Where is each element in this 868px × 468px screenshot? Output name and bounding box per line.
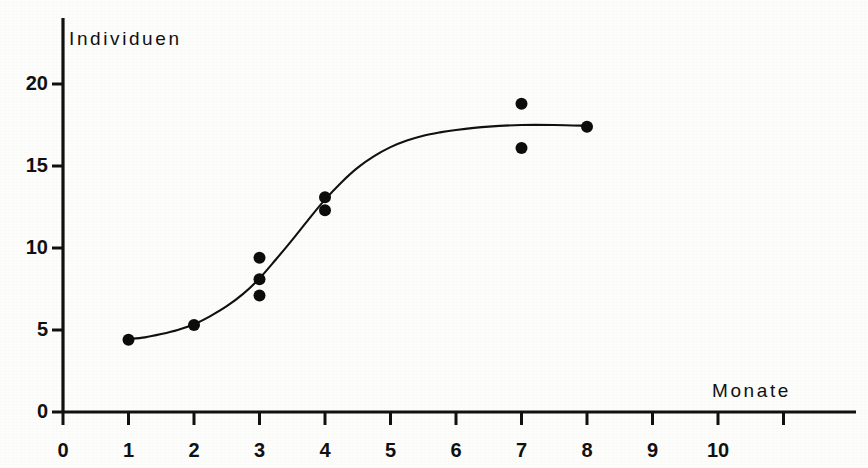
figure-panel: Individuen Monate 05101520012345678910: [0, 0, 868, 468]
x-axis-tick-label: 0: [43, 439, 83, 462]
x-axis-title: Monate: [712, 380, 791, 402]
data-point-marker: [319, 191, 331, 203]
data-point-marker: [254, 290, 266, 302]
data-point-marker: [188, 319, 200, 331]
data-point-marker: [516, 142, 528, 154]
data-point-marker: [516, 98, 528, 110]
data-point-marker: [581, 121, 593, 133]
x-axis-tick-label: 8: [567, 439, 607, 462]
data-point-marker: [254, 273, 266, 285]
y-axis-tick-label: 15: [4, 154, 48, 177]
x-axis-tick-label: 2: [174, 439, 214, 462]
x-axis-tick-label: 4: [305, 439, 345, 462]
logistic-fit-curve: [129, 125, 588, 339]
data-point-marker: [319, 204, 331, 216]
y-axis-tick-label: 20: [4, 72, 48, 95]
x-axis-tick-label: 1: [109, 439, 149, 462]
x-axis-tick-label: 6: [436, 439, 476, 462]
y-axis-tick-label: 5: [4, 318, 48, 341]
axes: [52, 18, 856, 425]
data-point-marker: [254, 252, 266, 264]
x-axis-tick-label: 5: [371, 439, 411, 462]
x-axis-tick-label: 10: [698, 439, 738, 462]
fit-curve: [129, 125, 588, 339]
data-point-marker: [123, 334, 135, 346]
x-axis-tick-label: 9: [633, 439, 673, 462]
data-points: [123, 98, 594, 346]
y-axis-tick-label: 0: [4, 400, 48, 423]
y-axis-tick-label: 10: [4, 236, 48, 259]
x-axis-tick-label: 3: [240, 439, 280, 462]
y-axis-title: Individuen: [69, 28, 182, 50]
x-axis-tick-label: 7: [502, 439, 542, 462]
